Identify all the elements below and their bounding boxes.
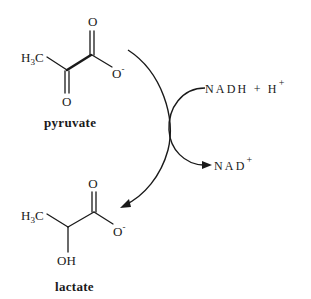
reaction-canvas: H3C O O O- pyruvate O H3C — [0, 0, 311, 299]
pyruvate-keto-oxygen: O — [62, 94, 71, 109]
pyruvate-carboxylate-oxygen: O- — [112, 64, 124, 81]
lactate-label: lactate — [55, 279, 94, 294]
lactate-structure: O H3C O- OH lactate — [21, 176, 125, 294]
lactate-methyl-label: H3C — [21, 208, 44, 225]
lactate-cc-bond — [68, 212, 94, 227]
nad-label: NAD+ — [214, 154, 253, 173]
main-reaction-arrow — [120, 50, 170, 208]
reaction-diagram: H3C O O O- pyruvate O H3C — [0, 0, 311, 299]
lactate-hydroxyl-label: OH — [57, 253, 76, 268]
pyruvate-structure: H3C O O O- pyruvate — [21, 14, 124, 130]
lactate-carbonyl-oxygen: O — [88, 176, 97, 191]
lactate-methyl-bond — [47, 214, 68, 227]
pyruvate-carboxylate-bond — [92, 55, 112, 67]
cofactor-arrowhead-icon — [202, 161, 212, 169]
pyruvate-methyl-label: H3C — [21, 50, 44, 67]
lactate-carboxylate-bond — [94, 212, 113, 224]
main-arrow-curve — [125, 50, 170, 205]
main-arrowhead-icon — [120, 199, 131, 208]
cofactor-arrow — [169, 88, 212, 169]
pyruvate-cc-bond — [67, 55, 91, 70]
cofactor-arrow-curve — [169, 88, 205, 165]
pyruvate-methyl-bond — [47, 57, 67, 70]
pyruvate-carbonyl-oxygen: O — [88, 14, 97, 29]
nadh-label: NADH + H+ — [205, 77, 285, 96]
lactate-carboxylate-oxygen: O- — [113, 222, 125, 239]
pyruvate-label: pyruvate — [44, 115, 96, 130]
